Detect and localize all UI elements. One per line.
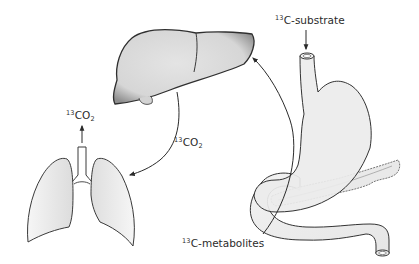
liver — [114, 30, 254, 105]
co2-text: CO — [75, 109, 91, 121]
metabolites-label: 13C-metabolites — [182, 238, 264, 249]
diagram-canvas: 13C-substrate 13CO2 13CO2 13C-metabolite… — [0, 0, 419, 264]
substrate-label: 13C-substrate — [275, 15, 345, 26]
isotope-superscript: 13 — [275, 14, 283, 22]
metabolites-text: C-metabolites — [191, 237, 264, 249]
subscript: 2 — [90, 115, 94, 123]
substrate-text: C-substrate — [284, 14, 345, 26]
co2-transport-label: 13CO2 — [174, 137, 203, 150]
lungs — [28, 147, 135, 246]
co2-exhaled-label: 13CO2 — [66, 110, 95, 123]
isotope-superscript: 13 — [174, 136, 182, 144]
isotope-superscript: 13 — [66, 109, 74, 117]
arrow-liver-to-lungs — [130, 92, 179, 175]
subscript: 2 — [198, 142, 202, 150]
co2-text: CO — [183, 136, 199, 148]
isotope-superscript: 13 — [182, 237, 190, 245]
